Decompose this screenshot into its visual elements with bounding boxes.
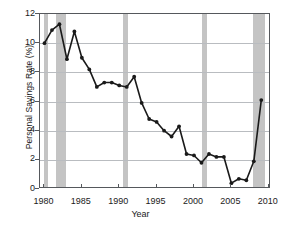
plot-area [39, 13, 270, 188]
data-point [192, 154, 196, 158]
data-point [162, 129, 166, 133]
personal-savings-rate-chart: Personal Savings Rate (%) 024681012 1980… [0, 0, 281, 227]
x-tick-mark [156, 184, 157, 188]
data-point [215, 155, 219, 159]
x-tick-mark [268, 184, 269, 188]
data-series-layer [40, 14, 270, 188]
data-point [65, 57, 69, 61]
data-point [170, 135, 174, 139]
y-tick-label: 10 [1, 38, 35, 47]
data-point [95, 85, 99, 89]
y-tick-label: 4 [1, 125, 35, 134]
data-point [87, 68, 91, 72]
x-axis-tick-labels: 1980198519901995200020052010 [39, 193, 270, 207]
data-point [185, 152, 189, 156]
data-point [177, 124, 181, 128]
x-tick-label: 1985 [61, 197, 101, 206]
y-tick-mark [35, 130, 39, 131]
x-tick-label: 2005 [210, 197, 250, 206]
x-tick-mark [230, 184, 231, 188]
data-point [252, 159, 256, 163]
x-axis-title: Year [0, 209, 281, 219]
y-tick-mark [35, 159, 39, 160]
x-tick-mark [43, 184, 44, 188]
x-tick-mark [118, 184, 119, 188]
y-axis-tick-labels: 024681012 [0, 0, 35, 227]
data-point [50, 28, 54, 32]
data-point [140, 101, 144, 105]
y-tick-mark [35, 71, 39, 72]
data-point [110, 81, 114, 85]
x-tick-mark [81, 184, 82, 188]
y-tick-mark [35, 101, 39, 102]
data-point [117, 84, 121, 88]
y-tick-label: 8 [1, 67, 35, 76]
data-point [259, 98, 263, 102]
data-point [132, 75, 136, 79]
series-markers [43, 22, 264, 185]
y-tick-mark [35, 42, 39, 43]
x-tick-label: 2000 [173, 197, 213, 206]
data-point [155, 120, 159, 124]
y-tick-mark [35, 188, 39, 189]
y-tick-label: 6 [1, 96, 35, 105]
data-point [244, 178, 248, 182]
y-tick-label: 0 [1, 184, 35, 193]
y-tick-mark [35, 13, 39, 14]
data-point [43, 41, 47, 45]
data-point [207, 152, 211, 156]
data-point [125, 85, 129, 89]
data-point [58, 22, 62, 26]
x-tick-mark [193, 184, 194, 188]
x-tick-label: 2010 [248, 197, 281, 206]
data-point [72, 30, 76, 34]
data-point [102, 81, 106, 85]
x-tick-label: 1990 [98, 197, 138, 206]
series-line [44, 24, 261, 183]
x-tick-label: 1980 [23, 197, 63, 206]
data-point [237, 177, 241, 181]
data-point [222, 155, 226, 159]
y-tick-label: 2 [1, 154, 35, 163]
data-point [80, 56, 84, 60]
x-tick-label: 1995 [136, 197, 176, 206]
data-point [200, 161, 204, 165]
y-tick-label: 12 [1, 9, 35, 18]
data-point [147, 117, 151, 121]
